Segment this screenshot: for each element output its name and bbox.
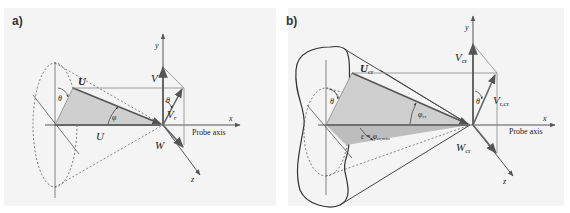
panel-a-diagram: y x z Probe axis U U V Vr W θ θ φ (33, 34, 240, 198)
theta-right-label: θ (166, 96, 170, 105)
figure: a) b) (0, 0, 570, 213)
Wcr-vector (473, 125, 496, 153)
Vrcr-label: Vr,cr (493, 94, 510, 108)
panel-b-diagram: y x z Probe axis Ucr Vcr Vr,cr Wcr θ θ φ… (296, 16, 555, 207)
Vr-label: Vr (167, 108, 177, 122)
diagram-svg: y x z Probe axis U U V Vr W θ θ φ (0, 0, 570, 213)
phi-label: φ (112, 113, 117, 122)
Ucr-label: Ucr (360, 62, 374, 76)
x-axis-label: x (228, 114, 233, 123)
y-axis-label-b: y (464, 23, 469, 32)
shaded-plane-lower (326, 125, 470, 145)
probe-axis-label-b: Probe axis (509, 127, 543, 136)
V-label: V (151, 72, 159, 84)
z-axis-label: z (190, 175, 195, 184)
W-label: W (155, 139, 165, 151)
theta-left-label-b: θ (330, 97, 334, 106)
U-vector-label: U (78, 75, 87, 87)
shaded-plane (55, 88, 163, 125)
Wcr-label: Wcr (456, 141, 471, 155)
x-axis-label-b: x (542, 114, 547, 123)
theta-left-label: θ (58, 94, 62, 103)
Vcr-label: Vcr (455, 51, 468, 65)
probe-axis-label: Probe axis (192, 128, 226, 137)
theta-right-label-b: θ (476, 97, 480, 106)
z-axis-label-b: z (502, 177, 507, 186)
y-axis-label: y (154, 41, 159, 50)
U-axial-label: U (96, 130, 105, 142)
W-vector (163, 125, 183, 147)
